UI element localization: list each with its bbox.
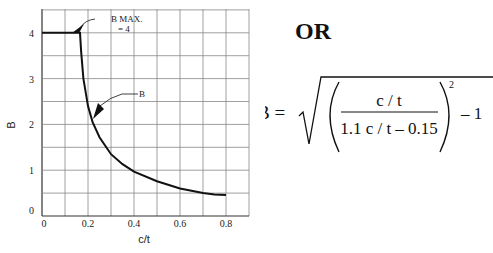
minus-one: – 1 xyxy=(460,104,482,123)
svg-text:B: B xyxy=(139,89,145,99)
exponent: 2 xyxy=(449,79,454,90)
svg-text:0.8: 0.8 xyxy=(220,218,233,229)
svg-text:0.6: 0.6 xyxy=(174,218,187,229)
svg-text:0: 0 xyxy=(29,205,34,216)
numerator: c / t xyxy=(376,91,402,110)
x-axis-label: c/t xyxy=(138,233,150,245)
or-label: OR xyxy=(295,18,331,45)
svg-text:0.4: 0.4 xyxy=(128,218,141,229)
svg-text:0.2: 0.2 xyxy=(82,218,95,229)
svg-text:1: 1 xyxy=(29,165,34,176)
formula-lhs: B = xyxy=(265,102,285,123)
formula: B = c / t 1.1 c / t – 0.15 2 – 1 xyxy=(265,72,493,162)
left-paren xyxy=(330,82,339,152)
axis-ticks: 00.20.40.60.801234 xyxy=(29,28,232,229)
svg-text:4: 4 xyxy=(29,28,34,39)
svg-text:= 4: = 4 xyxy=(118,24,130,34)
svg-text:2: 2 xyxy=(29,119,34,130)
svg-text:0: 0 xyxy=(42,218,47,229)
right-paren xyxy=(440,82,449,152)
chart: 00.20.40.60.801234 B MAX.= 4B c/t B xyxy=(0,0,260,253)
denominator: 1.1 c / t – 0.15 xyxy=(340,119,438,138)
svg-text:3: 3 xyxy=(29,74,34,85)
y-axis-label: B xyxy=(5,121,17,128)
grid xyxy=(42,9,249,216)
svg-text:B MAX.: B MAX. xyxy=(111,14,143,24)
